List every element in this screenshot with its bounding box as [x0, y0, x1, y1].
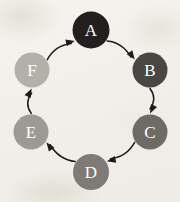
- node-circle-c[interactable]: [133, 115, 168, 150]
- cycle-graph: ABCDEF: [0, 0, 180, 202]
- figure-canvas: ABCDEF: [0, 0, 180, 202]
- edge-a-to-b: [107, 41, 131, 57]
- node-circle-a[interactable]: [73, 12, 110, 49]
- graph-node-f[interactable]: F: [15, 53, 50, 88]
- node-circle-d[interactable]: [73, 154, 109, 190]
- arrowhead-f-to-a: [65, 40, 75, 47]
- node-circle-e[interactable]: [14, 115, 49, 150]
- node-circle-b[interactable]: [133, 53, 168, 88]
- node-circle-f[interactable]: [15, 53, 50, 88]
- arrowhead-c-to-d: [107, 156, 117, 163]
- graph-node-b[interactable]: B: [133, 53, 168, 88]
- edge-c-to-d: [110, 142, 134, 158]
- nodes-layer: ABCDEF: [14, 12, 168, 191]
- graph-node-e[interactable]: E: [14, 115, 49, 150]
- graph-node-d[interactable]: D: [73, 154, 109, 190]
- graph-node-a[interactable]: A: [73, 12, 110, 49]
- arrowhead-e-to-f: [25, 89, 32, 99]
- arrowhead-b-to-c: [150, 104, 157, 114]
- edge-f-to-a: [47, 43, 71, 59]
- graph-node-c[interactable]: C: [133, 115, 168, 150]
